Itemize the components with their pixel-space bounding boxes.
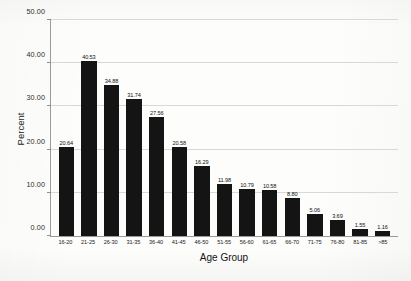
bar-value-label: 34.88	[105, 78, 119, 84]
bar: 20.64	[59, 147, 74, 236]
bar-value-label: 40.53	[82, 54, 96, 60]
x-axis-tick-label: 21-25	[77, 239, 100, 245]
x-axis-tick-label: 36-40	[145, 239, 168, 245]
x-axis-tick-label: 46-50	[190, 239, 213, 245]
bar-slot: 34.88	[100, 20, 123, 236]
bar: 3.69	[330, 220, 345, 236]
bar-slot: 31.74	[123, 20, 146, 236]
x-axis-tick-label: 76-80	[326, 239, 349, 245]
chart-page: Percent 0.0010.0020.0030.0040.0050.00 20…	[0, 0, 411, 281]
bar: 31.74	[126, 99, 141, 236]
bar-slot: 1.55	[349, 20, 372, 236]
bars-container: 20.6440.5334.8831.7427.5620.5816.2911.98…	[51, 20, 398, 236]
bar: 5.06	[307, 214, 322, 236]
y-axis-tick-label: 10.00	[27, 179, 46, 188]
x-axis-tick-label: 71-75	[303, 239, 326, 245]
bar-slot: 20.58	[168, 20, 191, 236]
bar-value-label: 16.29	[195, 159, 209, 165]
bar: 16.29	[194, 166, 209, 236]
bar-slot: 11.98	[213, 20, 236, 236]
x-axis-tick-label: 51-55	[213, 239, 236, 245]
x-axis-tick-label: 81-85	[349, 239, 372, 245]
bar-slot: 8.80	[281, 20, 304, 236]
y-axis-title-container: Percent	[12, 20, 26, 237]
bar: 11.98	[217, 184, 232, 236]
bar-value-label: 1.55	[355, 222, 366, 228]
y-axis-title: Percent	[15, 112, 26, 145]
x-axis-tick-label: 56-60	[235, 239, 258, 245]
x-axis-tick-label: 61-65	[258, 239, 281, 245]
bar-value-label: 1.16	[377, 224, 388, 230]
y-axis-tick-label: 20.00	[27, 136, 46, 145]
bar-slot: 16.29	[191, 20, 214, 236]
bar-slot: 10.79	[236, 20, 259, 236]
y-axis-tick-label: 0.00	[31, 223, 45, 232]
y-axis-tick-label: 30.00	[27, 93, 46, 102]
x-axis-tick-label: 66-70	[281, 239, 304, 245]
x-axis-tick-label: >85	[371, 239, 394, 245]
bar-value-label: 20.64	[60, 140, 74, 146]
bar-slot: 1.16	[371, 20, 394, 236]
plot-area: 0.0010.0020.0030.0040.0050.00 20.6440.53…	[50, 20, 398, 237]
bar: 8.80	[285, 198, 300, 236]
x-axis-tick-label: 26-30	[99, 239, 122, 245]
x-axis-tick-labels: 16-2021-2526-3031-3536-4041-4546-5051-55…	[50, 239, 398, 245]
bar: 40.53	[81, 61, 96, 236]
bar-slot: 5.06	[304, 20, 327, 236]
bar: 1.55	[352, 229, 367, 236]
bar: 27.56	[149, 117, 164, 236]
bar-value-label: 3.69	[332, 213, 343, 219]
bar-slot: 3.69	[326, 20, 349, 236]
bar-value-label: 10.79	[240, 182, 254, 188]
x-axis-tick-label: 16-20	[54, 239, 77, 245]
y-axis-tick-label: 40.00	[27, 50, 46, 59]
bar-slot: 10.58	[258, 20, 281, 236]
bar-slot: 27.56	[145, 20, 168, 236]
bar: 1.16	[375, 231, 390, 236]
bar: 34.88	[104, 85, 119, 236]
bar-value-label: 20.58	[173, 140, 187, 146]
bar-slot: 40.53	[78, 20, 101, 236]
bar-value-label: 27.56	[150, 110, 164, 116]
bar: 10.79	[239, 189, 254, 236]
bar-value-label: 8.80	[287, 191, 298, 197]
bar-value-label: 10.58	[263, 183, 277, 189]
bar-value-label: 5.06	[310, 207, 321, 213]
bar-slot: 20.64	[55, 20, 78, 236]
bar: 20.58	[172, 147, 187, 236]
x-axis-tick-label: 41-45	[167, 239, 190, 245]
bar: 10.58	[262, 190, 277, 236]
y-axis-tick-label: 50.00	[27, 7, 46, 16]
x-axis-tick-label: 31-35	[122, 239, 145, 245]
x-axis-title: Age Group	[50, 252, 398, 263]
bar-value-label: 11.98	[218, 177, 231, 183]
bar-value-label: 31.74	[127, 92, 141, 98]
